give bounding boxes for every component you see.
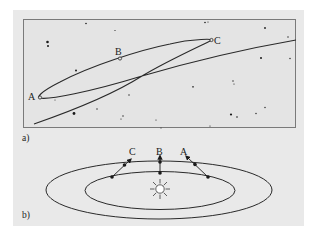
- sight-line-a: [187, 157, 210, 179]
- panel-b-label: b): [22, 210, 30, 221]
- sight-label-c: C: [129, 146, 136, 157]
- panel-a-label: a): [22, 133, 29, 144]
- point-b-label: B: [115, 46, 122, 57]
- panel-a: A B C a): [22, 20, 296, 145]
- position-a-marker: [38, 96, 41, 99]
- sight-label-a: A: [180, 146, 188, 157]
- point-c-label: C: [214, 35, 221, 46]
- position-c-marker: [210, 38, 213, 41]
- retrograde-diagram: A B C a): [0, 0, 316, 232]
- position-b-marker: [118, 57, 121, 60]
- star-field-box: [24, 20, 296, 128]
- point-a-label: A: [28, 91, 36, 102]
- sun-icon: [150, 179, 170, 199]
- panel-b: C B A b): [22, 146, 272, 221]
- sight-line-b: [158, 157, 162, 175]
- sight-label-b: B: [156, 146, 163, 157]
